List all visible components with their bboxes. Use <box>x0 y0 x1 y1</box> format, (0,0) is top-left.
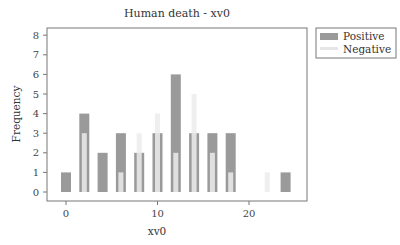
histogram-chart: Human death - xv0 012345678 01020 xv0 Fr… <box>0 0 400 245</box>
bar-negative <box>155 114 160 192</box>
chart-title: Human death - xv0 <box>124 7 230 20</box>
y-tick-label: 2 <box>33 147 39 158</box>
bar-negative <box>173 153 178 192</box>
x-axis: 01020 <box>63 201 256 219</box>
y-tick-label: 5 <box>33 89 39 100</box>
x-tick-label: 10 <box>151 208 164 219</box>
y-tick-label: 4 <box>33 108 39 119</box>
legend-label-positive: Positive <box>343 30 384 42</box>
bar-negative <box>228 172 233 192</box>
y-axis: 012345678 <box>33 30 47 198</box>
x-tick-label: 0 <box>63 208 69 219</box>
bar-positive <box>281 172 291 192</box>
bar-negative <box>265 172 270 192</box>
y-tick-label: 0 <box>33 187 39 198</box>
y-tick-label: 8 <box>33 30 39 41</box>
y-tick-label: 1 <box>33 167 39 178</box>
legend-swatch-positive <box>320 33 338 40</box>
x-axis-label: xv0 <box>148 225 167 237</box>
bar-negative <box>82 133 87 192</box>
bar-negative <box>192 94 197 192</box>
legend-swatch-negative <box>320 47 338 50</box>
bars-layer <box>61 74 291 192</box>
bar-negative <box>118 172 123 192</box>
y-tick-label: 7 <box>33 49 39 60</box>
y-tick-label: 3 <box>33 128 39 139</box>
legend-label-negative: Negative <box>343 43 391 55</box>
bar-positive <box>61 172 71 192</box>
x-tick-label: 20 <box>243 208 256 219</box>
bar-negative <box>210 153 215 192</box>
bar-positive <box>98 153 108 192</box>
y-tick-label: 6 <box>33 69 39 80</box>
y-axis-label: Frequency <box>10 86 22 143</box>
legend: Positive Negative <box>316 28 396 58</box>
bar-negative <box>137 133 142 192</box>
